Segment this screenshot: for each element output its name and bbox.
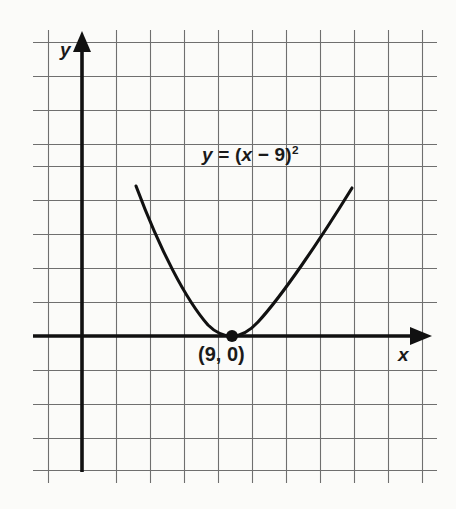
figure-canvas: y x y = (x − 9)2 (9, 0) — [0, 0, 456, 509]
up-arrow-icon — [73, 31, 91, 52]
equation-y-term: y — [202, 144, 213, 165]
parabola-graph — [0, 0, 456, 509]
x-axis-label: x — [398, 345, 409, 364]
equation-x-term: x — [242, 144, 253, 165]
vertex-point-marker — [226, 330, 238, 342]
equation-remainder: − 9) — [252, 144, 292, 165]
grid-vertical-lines — [49, 30, 423, 483]
vertex-coordinate-label: (9, 0) — [198, 344, 245, 364]
equation-exponent: 2 — [292, 143, 299, 156]
equation-equals: = ( — [213, 144, 242, 165]
grid-horizontal-lines — [33, 43, 437, 471]
y-axis — [73, 31, 91, 472]
y-axis-label: y — [60, 40, 71, 59]
parabola-curve — [136, 186, 352, 336]
right-arrow-icon — [410, 327, 432, 345]
equation-label: y = (x − 9)2 — [202, 145, 299, 164]
